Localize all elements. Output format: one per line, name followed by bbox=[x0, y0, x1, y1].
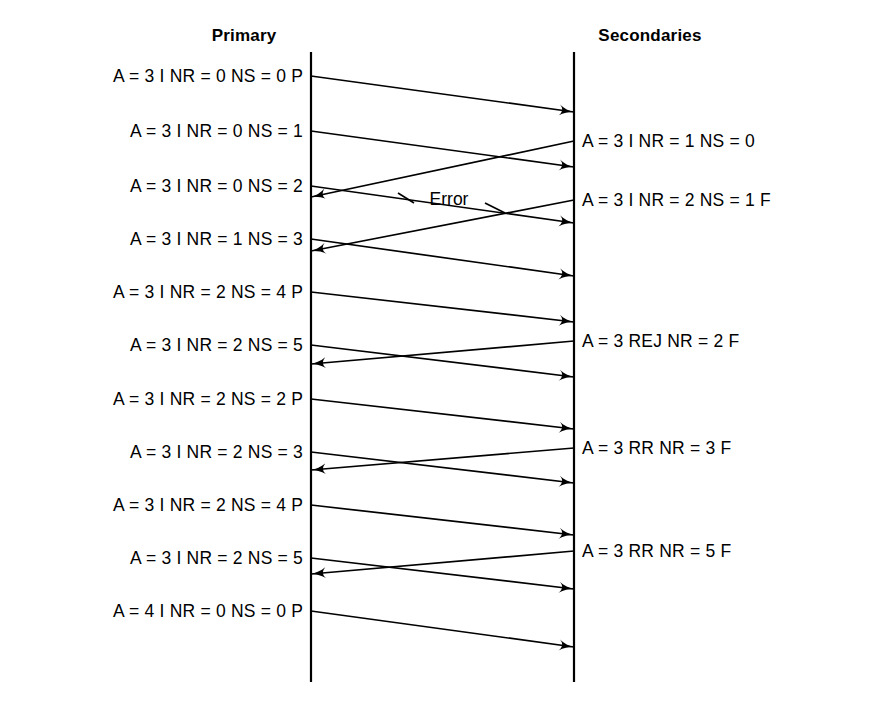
primary-message-4: A = 3 I NR = 1 NS = 3 bbox=[130, 229, 303, 250]
primary-message-9: A = 3 I NR = 2 NS = 4 P bbox=[113, 495, 303, 516]
error-label: Error bbox=[430, 189, 469, 210]
primary-message-7: A = 3 I NR = 2 NS = 2 P bbox=[113, 389, 303, 410]
primary-message-10: A = 3 I NR = 2 NS = 5 bbox=[130, 548, 303, 569]
primary-message-3: A = 3 I NR = 0 NS = 2 bbox=[130, 176, 303, 197]
sequence-diagram: PrimarySecondaries A = 3 I NR = 0 NS = 0… bbox=[0, 0, 884, 710]
arrows-group bbox=[311, 76, 574, 647]
primary-message-6: A = 3 I NR = 2 NS = 5 bbox=[130, 335, 303, 356]
secondary-message-2: A = 3 I NR = 2 NS = 1 F bbox=[582, 190, 771, 211]
arrow-p2s-7 bbox=[311, 399, 574, 429]
arrow-p2s-4 bbox=[311, 239, 574, 276]
secondary-message-5: A = 3 RR NR = 5 F bbox=[582, 541, 731, 562]
arrow-p2s-1 bbox=[311, 76, 574, 112]
lifelines-group bbox=[311, 52, 574, 682]
secondary-message-4: A = 3 RR NR = 3 F bbox=[582, 438, 731, 459]
secondary-message-3: A = 3 REJ NR = 2 F bbox=[582, 331, 739, 352]
primary-message-2: A = 3 I NR = 0 NS = 1 bbox=[130, 121, 303, 142]
column-header-primary: Primary bbox=[212, 26, 277, 46]
arrow-p2s-5 bbox=[311, 292, 574, 322]
primary-message-5: A = 3 I NR = 2 NS = 4 P bbox=[113, 282, 303, 303]
primary-message-1: A = 3 I NR = 0 NS = 0 P bbox=[113, 66, 303, 87]
arrow-p2s-9 bbox=[311, 505, 574, 535]
secondary-message-1: A = 3 I NR = 1 NS = 0 bbox=[582, 131, 755, 152]
arrow-p2s-11 bbox=[311, 611, 574, 647]
column-header-secondaries: Secondaries bbox=[598, 26, 701, 46]
primary-message-11: A = 4 I NR = 0 NS = 0 P bbox=[113, 601, 303, 622]
primary-message-8: A = 3 I NR = 2 NS = 3 bbox=[130, 442, 303, 463]
